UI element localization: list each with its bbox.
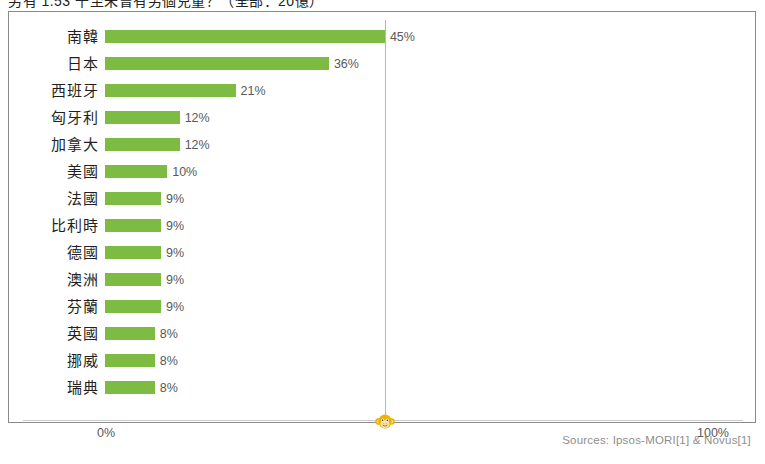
bar-value-label: 9% <box>166 294 184 320</box>
bar-row: 法國9% <box>9 186 757 212</box>
category-label: 澳洲 <box>23 267 99 293</box>
sources-note: Sources: Ipsos-MORI[1] & Novus[1] <box>562 434 751 446</box>
bar-value-label: 21% <box>241 78 266 104</box>
category-label: 比利時 <box>23 213 99 239</box>
bar-row: 美國10% <box>9 159 757 185</box>
bar-row: 匈牙利12% <box>9 105 757 131</box>
bar-value-label: 9% <box>166 186 184 212</box>
bar-value-label: 45% <box>390 24 415 50</box>
bar-row: 瑞典8% <box>9 375 757 401</box>
chart-frame: 南韓45%日本36%西班牙21%匈牙利12%加拿大12%美國10%法國9%比利時… <box>8 11 756 423</box>
monkey-icon <box>374 411 396 433</box>
axis-tick-left: 0% <box>97 426 115 440</box>
bar-value-label: 8% <box>160 348 178 374</box>
bar-row: 日本36% <box>9 51 757 77</box>
bar <box>105 57 329 70</box>
category-label: 日本 <box>23 51 99 77</box>
bar <box>105 354 155 367</box>
bar-row: 芬蘭9% <box>9 294 757 320</box>
bar-value-label: 36% <box>334 51 359 77</box>
bar <box>105 30 385 43</box>
page-title: 另有 1.53 千至未曾有另個兒童？（全部：20億） <box>8 0 324 10</box>
bar <box>105 273 161 286</box>
category-label: 美國 <box>23 159 99 185</box>
bar-row: 德國9% <box>9 240 757 266</box>
bar <box>105 381 155 394</box>
category-label: 法國 <box>23 186 99 212</box>
bar <box>105 138 180 151</box>
category-label: 挪威 <box>23 348 99 374</box>
bar-row: 西班牙21% <box>9 78 757 104</box>
bar-value-label: 9% <box>166 213 184 239</box>
bar <box>105 165 167 178</box>
bar-value-label: 8% <box>160 375 178 401</box>
bar-row: 加拿大12% <box>9 132 757 158</box>
category-label: 西班牙 <box>23 78 99 104</box>
chart-page: 另有 1.53 千至未曾有另個兒童？（全部：20億） 南韓45%日本36%西班牙… <box>0 0 765 464</box>
bar-value-label: 12% <box>185 132 210 158</box>
category-label: 南韓 <box>23 24 99 50</box>
bar <box>105 192 161 205</box>
bar <box>105 219 161 232</box>
category-label: 瑞典 <box>23 375 99 401</box>
bar <box>105 84 236 97</box>
bar-value-label: 10% <box>172 159 197 185</box>
category-label: 德國 <box>23 240 99 266</box>
bar-row: 南韓45% <box>9 24 757 50</box>
bar-row: 挪威8% <box>9 348 757 374</box>
bar-row: 英國8% <box>9 321 757 347</box>
bar-row: 澳洲9% <box>9 267 757 293</box>
category-label: 加拿大 <box>23 132 99 158</box>
bar <box>105 327 155 340</box>
bar <box>105 246 161 259</box>
bar <box>105 111 180 124</box>
category-label: 匈牙利 <box>23 105 99 131</box>
plot-area: 南韓45%日本36%西班牙21%匈牙利12%加拿大12%美國10%法國9%比利時… <box>9 12 757 422</box>
bar <box>105 300 161 313</box>
bar-value-label: 8% <box>160 321 178 347</box>
category-label: 芬蘭 <box>23 294 99 320</box>
category-label: 英國 <box>23 321 99 347</box>
bar-value-label: 12% <box>185 105 210 131</box>
bar-row: 比利時9% <box>9 213 757 239</box>
bar-value-label: 9% <box>166 267 184 293</box>
bar-value-label: 9% <box>166 240 184 266</box>
